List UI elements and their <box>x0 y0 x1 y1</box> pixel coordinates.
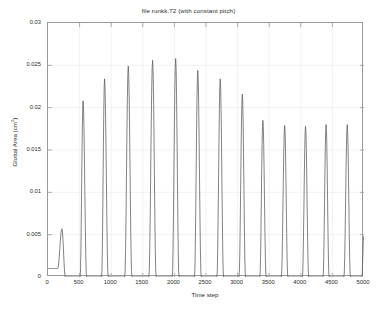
x-axis-tick-labels: 0 500 1000 1500 2000 2500 3000 3500 4000… <box>0 279 377 291</box>
x-tick-label: 3500 <box>262 279 275 285</box>
plot-area <box>47 22 363 276</box>
y-tick-label: 0.005 <box>26 231 41 237</box>
y-axis-title-close: ) <box>11 118 18 120</box>
y-tick-label: 0.015 <box>26 146 41 152</box>
x-tick-label: 4000 <box>293 279 306 285</box>
x-tick-label: 2000 <box>167 279 180 285</box>
matlab-figure: file runkk.72 (with constant pitch) 0.03… <box>0 0 377 313</box>
x-tick-label: 500 <box>74 279 84 285</box>
grid-lines <box>48 23 364 277</box>
x-tick-label: 3000 <box>230 279 243 285</box>
y-tick-label: 0.03 <box>30 19 41 25</box>
x-axis-title: Time step <box>47 291 363 298</box>
plot-svg <box>48 23 364 277</box>
x-tick-label: 2500 <box>199 279 212 285</box>
y-tick-label: 0.025 <box>26 61 41 67</box>
x-tick-label: 5000 <box>357 279 370 285</box>
y-tick-label: 0.02 <box>30 104 41 110</box>
page-title: file runkk.72 (with constant pitch) <box>0 7 377 14</box>
x-tick-label: 1000 <box>104 279 117 285</box>
y-axis-tick-labels: 0.03 0.025 0.02 0.015 0.01 0.005 0 <box>0 0 44 313</box>
x-tick-label: 1500 <box>135 279 148 285</box>
x-tick-label: 0 <box>45 279 48 285</box>
x-tick-label: 4500 <box>325 279 338 285</box>
y-tick-label: 0.01 <box>30 188 41 194</box>
y-axis-title-text: Glottal Area (cm <box>11 122 18 166</box>
y-axis-title: Glottal Area (cm2) <box>10 102 18 182</box>
